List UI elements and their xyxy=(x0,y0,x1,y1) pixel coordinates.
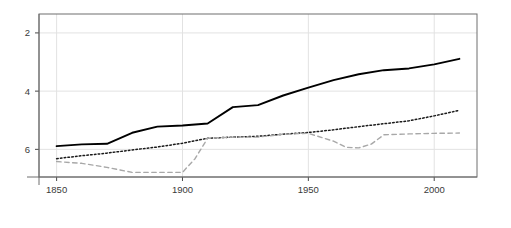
x-tick-label: 1900 xyxy=(172,184,193,195)
x-tick-label: 1850 xyxy=(46,184,67,195)
y-tick-label: 4 xyxy=(25,86,30,97)
chart-container: 1850190019502000 246 xyxy=(0,0,511,228)
x-tick-label: 2000 xyxy=(424,184,445,195)
line-chart: 1850190019502000 246 xyxy=(0,0,511,228)
x-tick-label: 1950 xyxy=(298,184,319,195)
y-tick-label: 6 xyxy=(25,144,30,155)
y-tick-label: 2 xyxy=(25,27,30,38)
